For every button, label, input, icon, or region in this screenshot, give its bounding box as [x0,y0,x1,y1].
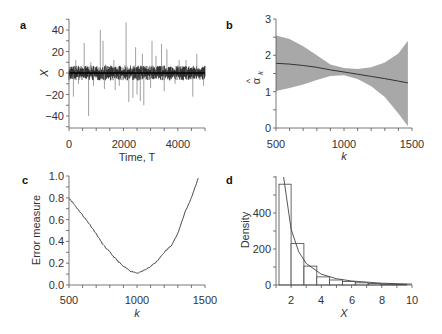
panel-b-y-ticks [273,19,276,128]
panel-a-xtick-label: 0 [66,138,72,150]
panel-d-x-label: X [339,307,348,319]
panel-a-letter: a [20,19,27,31]
panel-c-ytick-label: 0.6 [49,214,64,226]
histogram-bar [330,280,343,285]
panel-d-xtick-label: 2 [288,294,294,306]
panel-c-y-ticks [66,176,69,285]
panel-d-xtick-label: 10 [406,294,418,306]
panel-c-ytick-label: 0.2 [49,257,64,269]
panel-c-error-curve [69,178,198,273]
panel-a-y-label: X [38,69,50,78]
panel-d-xtick-label: 4 [318,294,324,306]
panel-c-y-label: Error measure [30,195,42,265]
panel-a-x-ticks [69,128,205,131]
panel-d-ytick-label: 200 [253,243,271,255]
figure: a 40 20 0 −20 −40 0 2000 4000 Time, T X … [0,0,442,334]
panel-d-xtick-label: 8 [379,294,385,306]
panel-d: d 400 200 0 2 4 6 8 10 X Density [226,174,418,319]
panel-c: c 1.0 0.8 0.6 0.4 0.2 0.0 500 1000 1500 … [22,170,217,319]
panel-d-xtick-label: 6 [349,294,355,306]
panel-a-ytick-label: 40 [52,24,64,36]
panel-b-ytick-label: 2 [265,49,271,61]
histogram-bar [291,244,304,285]
panel-d-y-ticks [273,177,276,285]
histogram-bar [317,277,330,285]
panel-c-ytick-label: 0.8 [49,192,64,204]
panel-b-y-label: α ^ k [245,70,265,84]
panel-b-ytick-label: 3 [265,13,271,25]
histogram-bar [279,184,291,285]
panel-d-ytick-label: 400 [253,207,271,219]
panel-c-xtick-label: 1000 [125,294,149,306]
histogram-bar [304,266,317,285]
panel-a-xtick-label: 2000 [112,138,136,150]
panel-a-ytick-label: −20 [45,89,64,101]
panel-a: a 40 20 0 −20 −40 0 2000 4000 Time, T X [20,19,205,163]
panel-a-y-ticks [66,19,69,127]
panel-b-y-label-sub: k [256,70,265,75]
panel-b: b 3 2 1 0 500 1000 1500 k α ^ k [226,13,424,162]
panel-a-ytick-label: 0 [58,67,64,79]
panel-c-x-ticks [69,285,205,288]
panel-a-x-label: Time, T [119,151,156,163]
panel-b-xtick-label: 500 [267,138,285,150]
panel-d-histogram [279,184,407,285]
panel-b-xtick-label: 1000 [332,138,356,150]
panel-b-ytick-label: 1 [265,86,271,98]
panel-c-xtick-label: 500 [60,294,78,306]
histogram-bar [343,281,356,285]
panel-a-ytick-label: 20 [52,46,64,58]
panel-a-time-series [69,23,205,117]
panel-d-y-label: Density [239,211,251,248]
panel-a-ytick-label: −40 [45,110,64,122]
panel-b-confidence-band [276,35,408,126]
panel-d-x-ticks [276,285,412,288]
panel-c-letter: c [22,174,28,186]
panel-c-x-label: k [134,307,140,319]
panel-b-letter: b [226,19,233,31]
panel-c-ytick-label: 0.4 [49,235,64,247]
panel-d-letter: d [226,174,233,186]
panel-b-ytick-label: 0 [265,122,271,134]
panel-c-ytick-label: 1.0 [49,170,64,182]
panel-d-ytick-label: 0 [265,279,271,291]
panel-b-x-label: k [341,150,347,162]
panel-a-xtick-label: 4000 [166,138,190,150]
panel-b-x-ticks [276,128,412,131]
panel-c-ytick-label: 0.0 [49,279,64,291]
panel-c-xtick-label: 1500 [193,294,217,306]
panel-b-xtick-label: 1500 [400,138,424,150]
